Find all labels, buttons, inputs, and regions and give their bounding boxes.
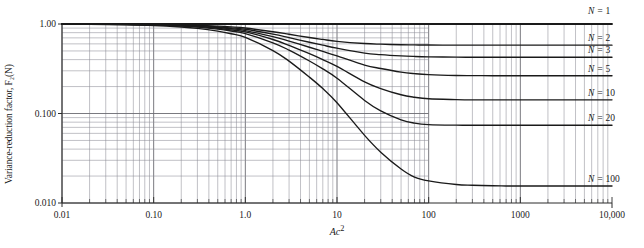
curve-label: N = 100 [588,174,620,184]
x-axis-label: Ac2 [62,224,612,237]
curve-label: N = 20 [588,113,615,123]
axis-lines [58,24,612,208]
x-axis-label-base: Ac [330,226,341,237]
x-tick-label: 100 [422,210,436,220]
y-tick-label: 0.100 [10,109,56,119]
plot-area [0,0,644,248]
x-tick-label: 0.01 [54,210,71,220]
x-tick-label: 0.10 [145,210,162,220]
curve-label: N = 2 [588,33,610,43]
grid-lines [62,24,608,203]
variance-reduction-factor-chart: Variance-reduction factor, F₂(N) 1.00 0.… [0,0,644,248]
x-tick-label: 1000 [511,210,530,220]
y-tick-label-group: 1.00 0.100 0.010 [8,0,56,248]
x-tick-label: 10,000 [599,210,625,220]
y-tick-label: 0.010 [10,198,56,208]
x-tick-label: 10 [332,210,342,220]
x-tick-label: 1.0 [239,210,251,220]
x-axis-label-exponent: 2 [340,224,344,233]
curve-label: N = 5 [588,64,610,74]
curve-label: N = 1 [588,6,610,16]
y-tick-label: 1.00 [10,19,56,29]
curve-label: N = 3 [588,45,610,55]
curve-label: N = 10 [588,88,615,98]
